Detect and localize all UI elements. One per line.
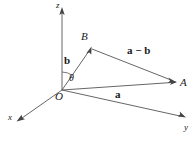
origin-point-label: O [55,91,63,102]
point-b-label: B [81,31,88,42]
y-axis-arrowhead [178,112,186,118]
z-axis-label: z [56,1,60,10]
theta-angle-label: θ [69,73,74,83]
vector-diagram-canvas [0,0,196,143]
x-axis-label: x [8,113,12,122]
vector-diagram-figure: z x y O A B a b a − b θ [0,0,196,143]
vector-a-minus-b-arrowhead [168,78,177,83]
vector-a-minus-b-label: a − b [127,45,150,56]
vector-b-label: b [64,55,70,66]
point-a-label: A [180,77,187,88]
y-axis-label: y [184,123,188,132]
vector-a-label: a [115,89,121,100]
x-axis-arrowhead [17,115,26,122]
y-axis-line [62,90,180,116]
